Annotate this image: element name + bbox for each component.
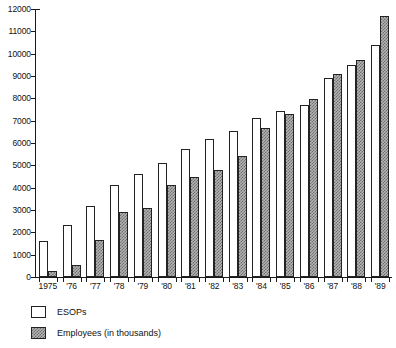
- y-axis-tick-mark: [31, 9, 36, 10]
- y-axis-tick-mark: [31, 188, 36, 189]
- y-axis-tick-mark: [31, 165, 36, 166]
- bar-esops: [300, 105, 309, 277]
- bar-esops: [39, 241, 48, 277]
- x-axis-tick-mark: [223, 278, 224, 282]
- bar-group: [181, 9, 199, 277]
- bar-esops: [347, 65, 356, 277]
- bar-group: [205, 9, 223, 277]
- legend-item-label: Employees (in thousands): [57, 328, 161, 339]
- x-axis-tick-mark: [39, 278, 40, 282]
- y-axis-tick-label: 8000: [0, 94, 31, 103]
- bar-esops: [371, 45, 380, 277]
- x-axis-tick-mark: [318, 278, 319, 282]
- bar-chart: 1200011000100009000800070006000500040003…: [0, 0, 396, 348]
- bar-employees: [261, 128, 270, 277]
- y-axis-tick-mark: [31, 76, 36, 77]
- bar-group: [371, 9, 389, 277]
- bar-group: [158, 9, 176, 277]
- bar-esops: [86, 206, 95, 277]
- y-axis-tick-mark: [31, 98, 36, 99]
- bar-esops: [181, 149, 190, 277]
- y-axis-tick-mark: [31, 255, 36, 256]
- x-axis-tick-mark: [86, 278, 87, 282]
- y-axis-tick-label: 3000: [0, 206, 31, 215]
- legend-item-esops: ESOPs: [31, 303, 291, 321]
- bar-employees: [333, 74, 342, 277]
- bar-group: [300, 9, 318, 277]
- y-axis-tick-label: 12000: [0, 5, 31, 14]
- bar-employees: [190, 177, 199, 278]
- bar-employees: [119, 212, 128, 277]
- bar-employees: [214, 170, 223, 277]
- y-axis-tick-label: 5000: [0, 161, 31, 170]
- bar-esops: [229, 131, 238, 277]
- x-axis-tick-mark: [81, 278, 82, 282]
- x-axis-tick-mark: [247, 278, 248, 282]
- x-axis-tick-mark: [128, 278, 129, 282]
- bar-group: [134, 9, 152, 277]
- x-axis-tick-mark: [276, 278, 277, 282]
- y-axis-tick-mark: [31, 232, 36, 233]
- x-axis-tick-mark: [205, 278, 206, 282]
- bar-esops: [276, 111, 285, 277]
- bar-esops: [134, 174, 143, 277]
- y-axis-tick-label: 2000: [0, 228, 31, 237]
- x-axis-tick-mark: [252, 278, 253, 282]
- hatched-square-icon: [31, 327, 46, 339]
- x-axis-tick-mark: [294, 278, 295, 282]
- y-axis-tick-labels: 1200011000100009000800070006000500040003…: [0, 0, 31, 290]
- y-axis-tick-mark: [31, 210, 36, 211]
- bar-group: [252, 9, 270, 277]
- bar-group: [229, 9, 247, 277]
- bar-esops: [110, 185, 119, 277]
- x-axis-tick-mark: [181, 278, 182, 282]
- bar-group: [276, 9, 294, 277]
- bar-esops: [252, 118, 261, 277]
- legend-item-employees: Employees (in thousands): [31, 324, 291, 342]
- y-axis-tick-mark: [31, 121, 36, 122]
- y-axis-tick-label: 1000: [0, 250, 31, 259]
- x-axis-tick-mark: [176, 278, 177, 282]
- x-axis-tick-mark: [324, 278, 325, 282]
- x-axis-tick-mark: [300, 278, 301, 282]
- bar-group: [39, 9, 57, 277]
- y-axis-tick-mark: [31, 54, 36, 55]
- bar-employees: [380, 16, 389, 277]
- bars-layer: [36, 0, 392, 278]
- bar-group: [324, 9, 342, 277]
- x-axis-tick-mark: [342, 278, 343, 282]
- y-axis-tick-mark: [31, 31, 36, 32]
- legend-item-label: ESOPs: [57, 307, 87, 318]
- plot-area: 1200011000100009000800070006000500040003…: [0, 0, 396, 290]
- bar-group: [63, 9, 81, 277]
- x-axis-tick-mark: [371, 278, 372, 282]
- x-axis-tick-labels: 1975'76'77'78'79'80'81'82'83'84'85'86'87…: [0, 281, 396, 295]
- y-axis-tick-label: 10000: [0, 49, 31, 58]
- x-axis-tick-mark: [365, 278, 366, 282]
- y-axis-tick-label: 4000: [0, 183, 31, 192]
- x-axis-tick-mark: [158, 278, 159, 282]
- bar-employees: [309, 99, 318, 277]
- x-axis-tick-mark: [199, 278, 200, 282]
- bar-employees: [95, 240, 104, 277]
- bar-group: [347, 9, 365, 277]
- bar-employees: [167, 185, 176, 277]
- x-axis-tick-mark: [104, 278, 105, 282]
- bar-group: [86, 9, 104, 277]
- x-axis-tick-mark: [134, 278, 135, 282]
- x-axis-tick-mark: [152, 278, 153, 282]
- bar-esops: [205, 139, 214, 277]
- white-square-icon: [31, 306, 46, 318]
- bar-employees: [285, 114, 294, 277]
- bar-employees: [48, 271, 57, 277]
- y-axis-tick-mark: [31, 277, 36, 278]
- x-axis-tick-mark: [63, 278, 64, 282]
- y-axis-tick-label: 7000: [0, 116, 31, 125]
- bar-esops: [158, 163, 167, 277]
- y-axis-tick-label: 6000: [0, 139, 31, 148]
- bar-employees: [356, 60, 365, 277]
- y-axis-tick-mark: [31, 143, 36, 144]
- x-axis-tick-mark: [57, 278, 58, 282]
- x-axis-tick-mark: [110, 278, 111, 282]
- bar-employees: [238, 156, 247, 277]
